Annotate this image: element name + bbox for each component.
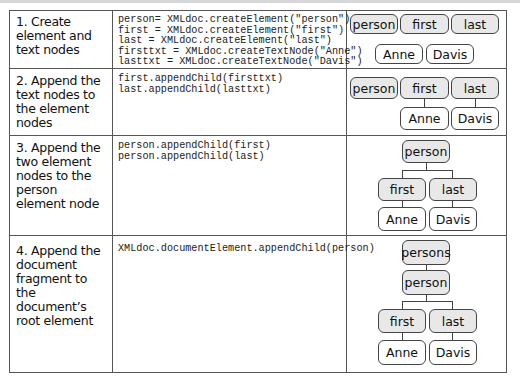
node-persons-root: persons (402, 240, 450, 265)
connector-to-last (452, 170, 453, 178)
node-text-anne: Anne (400, 107, 449, 130)
node-last: last (451, 77, 499, 99)
node-text-anne: Anne (378, 207, 426, 231)
row-divider-2 (9, 135, 507, 136)
step-3-description: 3. Append the two element nodes to the p… (16, 141, 108, 211)
node-text-davis: Davis (451, 107, 499, 130)
node-first: first (400, 14, 449, 34)
connector-last-davis (475, 99, 476, 107)
connector-first-anne (402, 333, 403, 340)
row-divider-1 (9, 68, 507, 69)
step-2-code: first.appendChild(firsttxt) last.appendC… (118, 74, 283, 95)
row-divider-3 (9, 235, 507, 236)
step-4-code: XMLdoc.documentElement.appendChild(perso… (118, 244, 375, 255)
node-person: person (350, 14, 398, 34)
node-person: person (402, 270, 450, 295)
connector-to-last (452, 301, 453, 309)
node-text-davis: Davis (429, 340, 477, 365)
page-top-edge (0, 0, 520, 3)
connector-first-anne (424, 99, 425, 107)
step-4-description: 4. Append the document fragment to the d… (16, 244, 108, 328)
connector-person-branch (402, 170, 452, 171)
column-divider-step-code (112, 10, 113, 373)
connector-person-stem (426, 163, 427, 170)
step-1-code: person= XMLdoc.createElement("person") f… (118, 15, 363, 68)
node-last: last (429, 309, 477, 333)
node-person: person (402, 140, 450, 163)
node-text-anne: Anne (375, 44, 423, 64)
node-person: person (350, 77, 398, 99)
node-first: first (378, 178, 426, 201)
connector-to-first (402, 301, 403, 309)
node-first: first (400, 77, 449, 99)
node-last: last (429, 178, 477, 201)
connector-to-first (402, 170, 403, 178)
connector-last-davis (452, 333, 453, 340)
node-text-davis: Davis (429, 207, 477, 231)
step-3-code: person.appendChild(first) person.appendC… (118, 141, 271, 162)
node-last: last (451, 14, 499, 34)
connector-person-branch (402, 301, 452, 302)
node-text-davis: Davis (426, 44, 474, 64)
node-first: first (378, 309, 426, 333)
step-1-description: 1. Create element and text nodes (16, 15, 108, 57)
step-2-description: 2. Append the text nodes to the element … (16, 74, 108, 130)
node-text-anne: Anne (378, 340, 426, 365)
